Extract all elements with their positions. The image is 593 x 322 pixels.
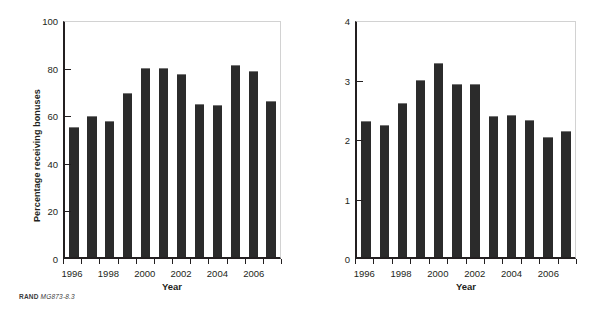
bar-2007 [266, 101, 275, 257]
bar-2000 [141, 68, 150, 257]
x-tick-label: 2002 [464, 268, 485, 279]
y-tick-label: 60 [31, 111, 58, 122]
y-axis-title-left: Percentage receiving bonuses [32, 89, 42, 222]
y-tick-label: 0 [323, 254, 350, 265]
x-tick [172, 259, 173, 264]
bar-slot [101, 22, 119, 257]
x-tick [190, 259, 191, 264]
bar-slot [244, 22, 262, 257]
y-tick-label: 80 [31, 63, 58, 74]
figure-bonus-charts: Percentage receiving bonuses 02040608010… [0, 0, 593, 322]
y-tick-label: 4 [323, 16, 350, 27]
x-tick [355, 259, 356, 264]
plot-area-left [63, 21, 281, 259]
bar-series-left [65, 22, 280, 257]
source-note: RAND MG873-8.3 [19, 293, 75, 300]
x-tick [466, 259, 467, 264]
bar-1999 [123, 93, 132, 258]
x-tick [484, 259, 485, 264]
bar-slot [412, 22, 430, 257]
x-tick [539, 259, 540, 264]
y-tick [64, 116, 71, 117]
x-tick [429, 259, 430, 264]
bar-slot [155, 22, 173, 257]
y-tick-label: 20 [31, 206, 58, 217]
plot-area-right [355, 21, 576, 259]
bar-1996 [361, 121, 370, 257]
x-tick [410, 259, 411, 264]
bar-slot [262, 22, 280, 257]
bar-1997 [87, 116, 96, 257]
bar-1998 [398, 103, 407, 257]
bar-1996 [69, 127, 78, 257]
x-tick [502, 259, 503, 264]
bar-2002 [177, 74, 186, 257]
chart-panel-average-bonus-step: Average bonus step 01234 199619982000200… [300, 0, 593, 300]
y-tick-label: 2 [323, 135, 350, 146]
bar-2000 [434, 63, 443, 257]
x-tick-label: 2000 [134, 268, 155, 279]
x-tick-label: 2002 [171, 268, 192, 279]
x-tick-label: 2000 [427, 268, 448, 279]
bar-1997 [380, 125, 389, 257]
bar-slot [557, 22, 575, 257]
source-code: MG873-8.3 [41, 293, 75, 300]
bar-slot [208, 22, 226, 257]
bar-slot [65, 22, 83, 257]
bar-slot [484, 22, 502, 257]
y-tick [356, 140, 363, 141]
bar-2004 [507, 115, 516, 257]
chart-panels: Percentage receiving bonuses 02040608010… [0, 0, 593, 300]
bar-slot [448, 22, 466, 257]
x-tick [208, 259, 209, 264]
bar-2005 [525, 120, 534, 257]
bar-2006 [543, 137, 552, 257]
x-tick [576, 259, 577, 264]
y-tick [64, 211, 71, 212]
source-brand: RAND [19, 293, 39, 300]
bar-2004 [213, 105, 222, 257]
bar-2003 [195, 104, 204, 257]
x-tick [227, 259, 228, 264]
bar-slot [375, 22, 393, 257]
chart-panel-percentage-receiving-bonuses: Percentage receiving bonuses 02040608010… [0, 0, 300, 300]
bar-slot [119, 22, 137, 257]
x-axis-title-left: Year [162, 281, 182, 292]
bar-2007 [561, 131, 570, 257]
y-tick-label: 100 [31, 16, 58, 27]
x-tick-label: 2006 [243, 268, 264, 279]
bar-slot [226, 22, 244, 257]
x-tick [245, 259, 246, 264]
x-tick-label: 2004 [501, 268, 522, 279]
x-tick [63, 259, 64, 264]
bar-2006 [249, 71, 258, 257]
bar-2001 [452, 84, 461, 257]
bar-series-right [357, 22, 575, 257]
bar-1998 [105, 121, 114, 257]
x-tick-label: 1998 [390, 268, 411, 279]
x-tick [392, 259, 393, 264]
x-tick [521, 259, 522, 264]
bar-slot [521, 22, 539, 257]
bar-slot [83, 22, 101, 257]
x-axis-title-right: Year [456, 281, 476, 292]
bar-slot [173, 22, 191, 257]
x-tick [154, 259, 155, 264]
x-tick-label: 2004 [207, 268, 228, 279]
x-tick [118, 259, 119, 264]
bar-slot [502, 22, 520, 257]
y-tick [64, 164, 71, 165]
x-tick [281, 259, 282, 264]
bar-slot [190, 22, 208, 257]
y-tick-label: 40 [31, 158, 58, 169]
bar-2005 [231, 65, 240, 257]
x-tick-label: 1996 [62, 268, 83, 279]
bar-1999 [416, 80, 425, 257]
x-tick [447, 259, 448, 264]
bar-slot [393, 22, 411, 257]
x-tick-label: 1996 [354, 268, 375, 279]
bar-slot [137, 22, 155, 257]
bar-slot [539, 22, 557, 257]
y-tick [64, 69, 71, 70]
y-tick-label: 1 [323, 194, 350, 205]
